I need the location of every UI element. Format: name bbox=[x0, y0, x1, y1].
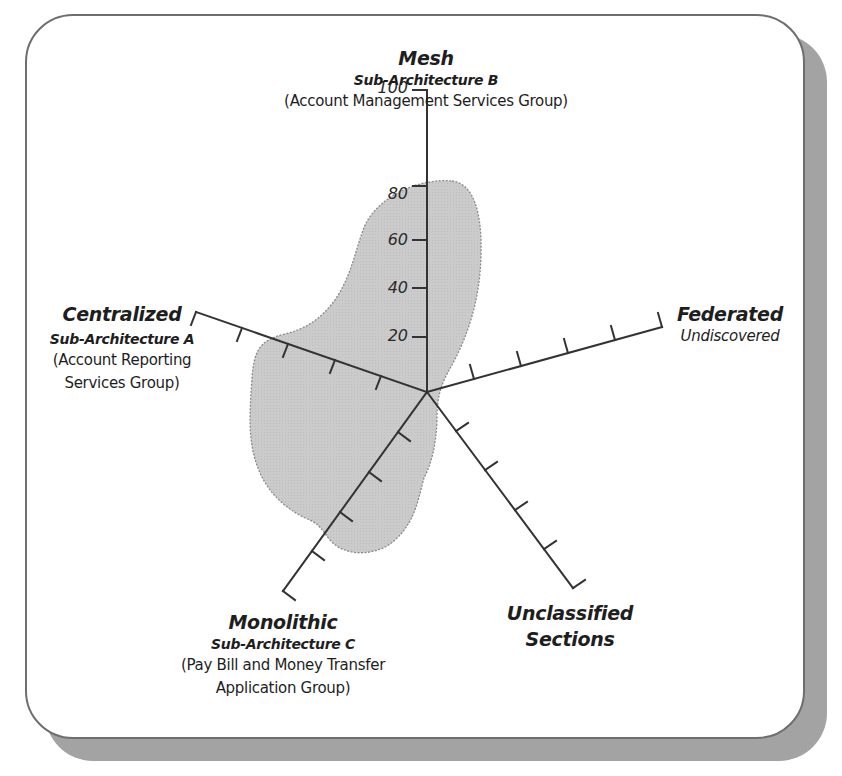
tick-label-40: 40 bbox=[368, 278, 408, 297]
monolithic-description-1: (Pay Bill and Money Transfer bbox=[140, 654, 426, 677]
tick-label-20: 20 bbox=[368, 326, 408, 345]
label-mesh: Mesh Sub-Architecture B (Account Managem… bbox=[220, 46, 632, 113]
coverage-region bbox=[250, 181, 481, 553]
label-monolithic: Monolithic Sub-Architecture C (Pay Bill … bbox=[140, 610, 426, 700]
centralized-description-1: (Account Reporting bbox=[28, 349, 216, 372]
unclassified-title-1: Unclassified bbox=[490, 600, 650, 626]
federated-description: Undiscovered bbox=[660, 326, 800, 347]
unclassified-title-2: Sections bbox=[490, 626, 650, 652]
centralized-title: Centralized bbox=[28, 302, 216, 326]
mesh-description: (Account Management Services Group) bbox=[220, 90, 632, 113]
mesh-title: Mesh bbox=[220, 46, 632, 70]
axis-unclassified bbox=[427, 392, 573, 588]
tick-label-80: 80 bbox=[368, 184, 408, 203]
monolithic-subtitle: Sub-Architecture C bbox=[140, 634, 426, 654]
monolithic-title: Monolithic bbox=[140, 610, 426, 634]
centralized-description-2: Services Group) bbox=[28, 372, 216, 395]
federated-title: Federated bbox=[660, 302, 800, 326]
mesh-subtitle: Sub-Architecture B bbox=[220, 70, 632, 90]
centralized-subtitle: Sub-Architecture A bbox=[28, 329, 216, 349]
label-centralized: Centralized Sub-Architecture A (Account … bbox=[28, 302, 216, 395]
tick-label-60: 60 bbox=[368, 230, 408, 249]
label-unclassified: Unclassified Sections bbox=[490, 600, 650, 652]
label-federated: Federated Undiscovered bbox=[660, 302, 800, 347]
monolithic-description-2: Application Group) bbox=[140, 677, 426, 700]
